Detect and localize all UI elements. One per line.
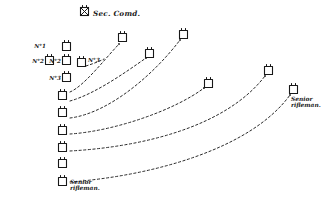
unit-label-no3-left: N°3 bbox=[48, 75, 61, 81]
unit-marker-advance-2 bbox=[146, 48, 154, 58]
unit-marker-no1 bbox=[63, 41, 71, 51]
unit-marker-column-4 bbox=[59, 142, 67, 152]
route-column6-to-advance-6 bbox=[70, 95, 290, 182]
unit-marker-column-1 bbox=[59, 90, 67, 100]
unit-marker-advance-3 bbox=[180, 29, 188, 39]
diagram-svg: Sec. Comd. N°1 N°2 N°2 N°3 bbox=[0, 0, 330, 203]
unit-marker-mid-no3 bbox=[78, 57, 86, 67]
unit-label-no2-left: N°2 bbox=[31, 58, 44, 64]
unit-marker-advance-4 bbox=[205, 78, 213, 88]
route-endpoint-dot bbox=[179, 39, 181, 41]
unit-marker-advance-1 bbox=[119, 32, 127, 42]
section-commander-label: Sec. Comd. bbox=[93, 9, 140, 18]
unit-label-no2-right: N°2 bbox=[48, 58, 61, 64]
tactical-diagram-canvas: Sec. Comd. N°1 N°2 N°2 N°3 bbox=[0, 0, 330, 203]
senior-rifleman-label-right: Seniorrifleman. bbox=[291, 95, 321, 109]
unit-marker-column-6 bbox=[59, 176, 67, 186]
unit-label-no1: N°1 bbox=[33, 43, 46, 49]
unit-marker-no3 bbox=[63, 72, 71, 82]
route-column3-to-advance-4 bbox=[70, 88, 204, 134]
unit-marker-advance-6 bbox=[290, 84, 298, 94]
unit-marker-column-3 bbox=[59, 125, 67, 135]
unit-marker-column-2 bbox=[59, 107, 67, 117]
unit-label-no3-right: N°3 bbox=[87, 57, 100, 63]
route-no3-to-advance-1 bbox=[70, 44, 119, 92]
unit-marker-column-5 bbox=[59, 158, 67, 168]
route-column2-to-advance-3 bbox=[70, 40, 180, 118]
senior-rifleman-label-bottom: Seniorrifleman. bbox=[70, 178, 100, 192]
route-endpoint-dot bbox=[264, 75, 266, 77]
route-layer bbox=[70, 39, 291, 182]
route-endpoint-dot bbox=[118, 43, 120, 45]
section-commander-symbol bbox=[81, 6, 89, 16]
unit-marker-no2 bbox=[63, 55, 71, 65]
unit-marker-advance-5 bbox=[265, 65, 273, 75]
